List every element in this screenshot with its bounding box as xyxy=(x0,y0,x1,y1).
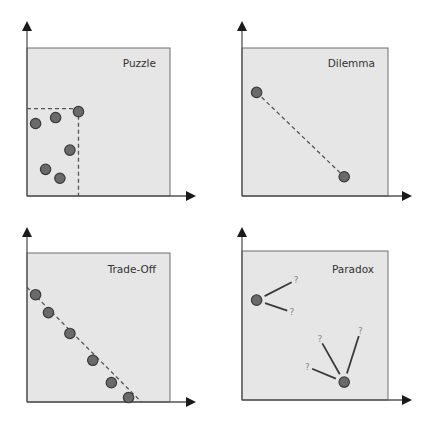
four-panel-diagram: Puzzle Dilemma Trade-Off ?????Paradox xyxy=(0,0,434,423)
data-point xyxy=(30,290,40,300)
data-point xyxy=(30,118,40,128)
data-point xyxy=(339,377,349,387)
data-point xyxy=(73,106,83,116)
data-point xyxy=(339,172,349,182)
data-point xyxy=(55,173,65,183)
puzzle-title: Puzzle xyxy=(123,57,156,69)
trade-off-plot-area xyxy=(27,253,170,402)
question-mark-label: ? xyxy=(358,326,363,336)
x-axis-arrow-icon xyxy=(186,397,196,407)
y-axis-arrow-icon xyxy=(22,227,32,237)
data-point xyxy=(123,392,133,402)
puzzle-panel: Puzzle xyxy=(22,21,196,201)
data-point xyxy=(251,295,261,305)
data-point xyxy=(50,112,60,122)
question-mark-label: ? xyxy=(290,307,295,317)
trade-off-panel: Trade-Off xyxy=(22,227,196,407)
data-point xyxy=(43,307,53,317)
x-axis-arrow-icon xyxy=(186,191,196,201)
data-point xyxy=(106,377,116,387)
data-point xyxy=(65,328,75,338)
dilemma-plot-area xyxy=(242,48,388,196)
paradox-title: Paradox xyxy=(332,263,374,275)
y-axis-arrow-icon xyxy=(22,21,32,31)
x-axis-arrow-icon xyxy=(402,395,412,405)
question-mark-label: ? xyxy=(294,275,299,285)
data-point xyxy=(88,355,98,365)
dilemma-panel: Dilemma xyxy=(237,21,412,201)
y-axis-arrow-icon xyxy=(237,21,247,31)
question-mark-label: ? xyxy=(305,362,310,372)
data-point xyxy=(40,164,50,174)
data-point xyxy=(65,145,75,155)
paradox-panel: ?????Paradox xyxy=(237,227,412,405)
question-mark-label: ? xyxy=(317,334,322,344)
x-axis-arrow-icon xyxy=(402,191,412,201)
y-axis-arrow-icon xyxy=(237,227,247,237)
data-point xyxy=(251,87,261,97)
trade-off-title: Trade-Off xyxy=(107,263,157,275)
dilemma-title: Dilemma xyxy=(328,57,375,69)
